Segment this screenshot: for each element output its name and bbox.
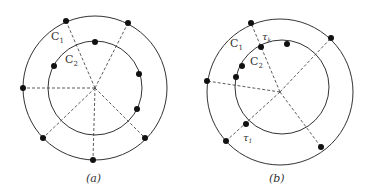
label-tau-1: τ1 [243, 132, 252, 144]
label-c1-b: C1 [230, 37, 243, 52]
label-c2-a: C2 [65, 53, 78, 68]
label-tau-k: τk [262, 31, 272, 43]
caption-a: (a) [86, 172, 101, 185]
concentric-circles-diagram: C1 C2 (a) C1 C2 τk τ1 (b) [0, 0, 368, 189]
figure-a-points [20, 18, 148, 163]
caption-b: (b) [269, 172, 285, 185]
label-c1-a: C1 [51, 30, 64, 45]
label-c2-b: C2 [250, 55, 263, 70]
